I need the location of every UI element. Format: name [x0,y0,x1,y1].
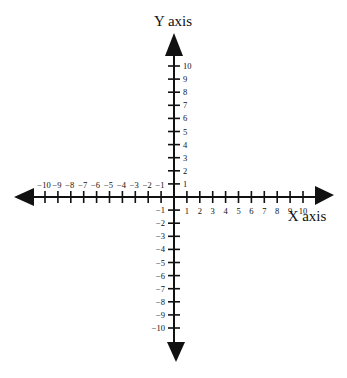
y-tick-label: 3 [183,153,187,163]
x-tick-label: 8 [275,206,279,216]
y-tick-label: −4 [156,244,166,254]
x-tick-label: 5 [236,206,240,216]
y-tick-label: −9 [156,310,165,320]
x-tick-label: −5 [104,180,113,190]
y-tick-label: −3 [156,231,165,241]
y-tick-label: −2 [156,218,165,228]
x-tick-label: 1 [185,206,189,216]
x-tick-label: −9 [52,180,61,190]
x-tick-label: 7 [262,206,266,216]
y-tick-label: 2 [183,166,187,176]
x-tick-label: −6 [91,180,100,190]
y-tick-label: −1 [156,205,165,215]
y-tick-label: −5 [156,258,165,268]
y-tick-label: 5 [183,127,187,137]
arrow-left-icon [14,188,34,206]
x-tick-label: 3 [211,206,215,216]
x-tick-label: 4 [223,206,228,216]
arrow-right-icon [315,186,334,205]
x-axis-label: X axis [288,208,327,224]
y-axis-label: Y axis [154,13,192,29]
y-tick-label: 10 [183,61,192,71]
y-tick-label: 8 [183,87,187,97]
y-tick-label: 7 [183,100,187,110]
coordinate-plane: 1−11−12−22−23−33−34−44−45−55−56−66−67−77… [0,0,347,378]
y-tick-label: 6 [183,113,187,123]
y-tick-label: 1 [183,179,187,189]
x-tick-label: 2 [198,206,202,216]
arrow-down-icon [167,342,185,362]
x-tick-label: −2 [143,180,152,190]
x-tick-label: −7 [78,180,87,190]
x-tick-label: 6 [249,206,253,216]
x-tick-label: −1 [156,180,165,190]
axes [14,33,334,362]
y-tick-label: −6 [156,271,165,281]
y-tick-label: 9 [183,74,187,84]
arrow-up-icon [165,33,183,56]
y-tick-label: −10 [152,323,165,333]
x-tick-label: −4 [117,180,127,190]
x-tick-label: −8 [65,180,74,190]
y-tick-label: 4 [183,140,188,150]
y-tick-label: −7 [156,284,165,294]
x-tick-label: −10 [37,180,50,190]
x-tick-label: −3 [130,180,139,190]
y-tick-label: −8 [156,297,165,307]
